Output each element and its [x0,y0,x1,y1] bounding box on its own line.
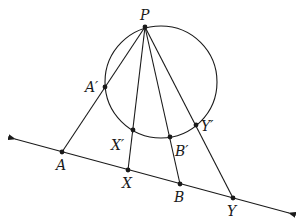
diagram-svg: PA′X′B′Y′AXBY [0,0,297,222]
point-b [178,182,183,187]
point-y1 [194,123,199,128]
labels: PA′X′B′Y′AXBY [54,7,238,219]
label-p: P [139,7,150,23]
label-x: X [121,175,133,191]
geometry-diagram: PA′X′B′Y′AXBY [0,0,297,222]
label-x1: X′ [110,137,125,153]
label-a: A [54,157,66,173]
segment-p-b [145,27,180,184]
label-b: B [173,189,184,205]
label-y: Y [227,203,238,219]
point-x [126,168,131,173]
point-a1 [103,85,108,90]
label-y1: Y′ [201,118,214,134]
line-ab [15,139,289,213]
point-p [143,25,148,30]
point-x1 [131,128,136,133]
segment-p-y [145,27,233,198]
point-b1 [168,135,173,140]
points [60,25,236,201]
label-b1: B′ [174,143,189,159]
point-y [231,196,236,201]
label-a1: A′ [83,79,99,95]
point-a [60,150,65,155]
